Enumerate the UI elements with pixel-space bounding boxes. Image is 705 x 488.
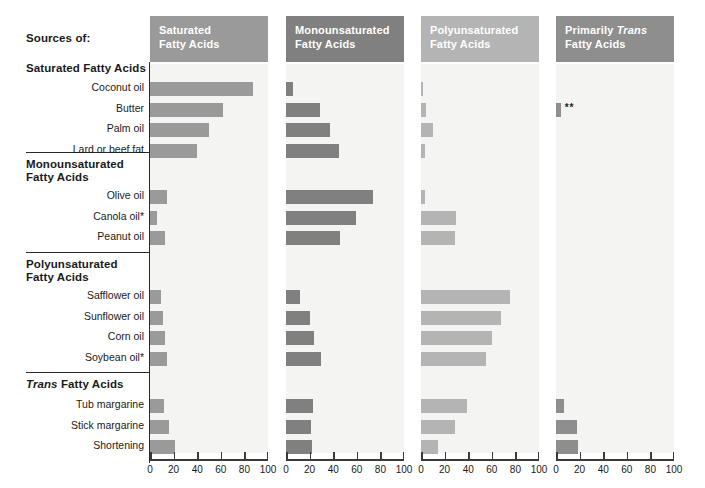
bar [150, 352, 167, 366]
axis-tick [197, 452, 199, 460]
plot-area-p2 [286, 64, 404, 453]
group-heading-line1: Polyunsaturated [26, 258, 118, 271]
panel-header-line1: Monounsaturated [295, 24, 404, 38]
bar [150, 231, 165, 245]
axis-tick [333, 452, 335, 460]
row-label: Canola oil* [93, 210, 144, 222]
axis-tick [174, 452, 176, 460]
axis-tick [267, 452, 269, 460]
row-label: Sunflower oil [84, 310, 144, 322]
axis-tick [468, 452, 470, 460]
bar [286, 190, 373, 204]
bar [150, 103, 223, 117]
axis-tick [221, 452, 223, 460]
axis-tick [421, 452, 423, 460]
axis-tick-label: 40 [328, 464, 339, 475]
bar [286, 144, 339, 158]
bar [421, 123, 433, 137]
panel-header-p4: Primarily TransFatty Acids [556, 16, 674, 62]
axis-tick [445, 452, 447, 460]
group-heading-italic: Trans [26, 378, 58, 390]
axis-tick [556, 452, 558, 460]
group-divider-2 [26, 252, 150, 253]
bar [421, 352, 486, 366]
axis-tick [150, 452, 152, 460]
bar [150, 123, 209, 137]
axis-tick-label: 20 [574, 464, 585, 475]
axis-tick [603, 452, 605, 460]
group-divider-3 [26, 372, 150, 373]
axis-tick [673, 452, 675, 460]
bar [421, 144, 425, 158]
row-label: Soybean oil* [85, 351, 144, 363]
axis-tick [244, 452, 246, 460]
panel-p2: MonounsaturatedFatty Acids020406080100 [286, 0, 404, 463]
axis-tick-label: 40 [598, 464, 609, 475]
plot-area-p4: ** [556, 64, 674, 453]
axis-tick-label: 0 [553, 464, 559, 475]
bar [150, 331, 165, 345]
axis-tick [515, 452, 517, 460]
row-label: Safflower oil [87, 289, 144, 301]
group-heading-3: PolyunsaturatedFatty Acids [26, 258, 118, 284]
bar [556, 420, 577, 434]
axis-tick [538, 452, 540, 460]
axis-tick [650, 452, 652, 460]
row-label-column: Sources of: Saturated Fatty AcidsCoconut… [0, 0, 150, 463]
axis-tick-label: 100 [531, 464, 548, 475]
group-heading-line2: Fatty Acids [26, 271, 118, 284]
x-axis-p1 [150, 451, 268, 463]
axis-line [150, 459, 268, 461]
bar [150, 144, 197, 158]
panel-header-line2: Fatty Acids [565, 38, 674, 52]
axis-tick-label: 100 [260, 464, 277, 475]
bar [286, 231, 340, 245]
axis-tick-label: 40 [463, 464, 474, 475]
x-axis-p2 [286, 451, 404, 463]
group-heading-line2: Fatty Acids [26, 171, 124, 184]
row-label: Coconut oil [91, 81, 144, 93]
axis-tick-label: 80 [375, 464, 386, 475]
bar [150, 311, 163, 325]
bar [421, 211, 456, 225]
bar [286, 311, 310, 325]
group-heading-2: MonounsaturatedFatty Acids [26, 158, 124, 184]
axis-line [421, 459, 539, 461]
axis-tick [627, 452, 629, 460]
group-heading-1: Saturated Fatty Acids [26, 62, 146, 75]
axis-tick [580, 452, 582, 460]
x-axis-p4 [556, 451, 674, 463]
x-axis-p3 [421, 451, 539, 463]
panel-header-line2: Fatty Acids [430, 38, 539, 52]
plot-area-p3 [421, 64, 539, 453]
bar [556, 399, 564, 413]
axis-tick [380, 452, 382, 460]
axis-tick-label: 60 [351, 464, 362, 475]
bar [286, 399, 313, 413]
group-heading-line1: Monounsaturated [26, 158, 124, 171]
bar [286, 211, 356, 225]
bar [421, 231, 455, 245]
bar [421, 399, 467, 413]
panel-p4: Primarily TransFatty Acids**020406080100 [556, 0, 674, 463]
axis-line [286, 459, 404, 461]
fatty-acid-sources-chart: Sources of: Saturated Fatty AcidsCoconut… [0, 0, 705, 488]
panel-header-prefix: Primarily [565, 24, 617, 36]
double-asterisk-note: ** [565, 102, 575, 113]
bar [150, 399, 164, 413]
panel-p3: PolyunsaturatedFatty Acids020406080100 [421, 0, 539, 463]
panel-header-line1: Primarily Trans [565, 24, 674, 38]
row-label: Olive oil [107, 189, 144, 201]
row-label: Tub margarine [76, 398, 144, 410]
axis-tick-label: 60 [621, 464, 632, 475]
bar [286, 331, 314, 345]
group-heading-rest: Fatty Acids [61, 378, 124, 390]
bar [421, 190, 425, 204]
group-heading-4: Trans Fatty Acids [26, 378, 124, 391]
axis-tick-label: 40 [192, 464, 203, 475]
axis-tick-label: 80 [645, 464, 656, 475]
axis-tick-label: 60 [215, 464, 226, 475]
bar [421, 311, 501, 325]
axis-tick-label: 0 [283, 464, 289, 475]
row-label: Corn oil [108, 330, 144, 342]
